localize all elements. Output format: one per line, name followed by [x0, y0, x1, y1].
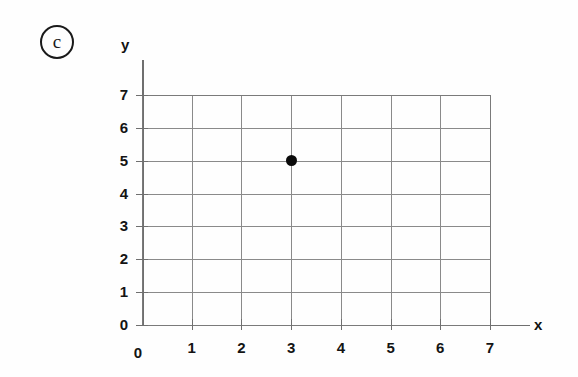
gridline-vertical: [341, 95, 342, 325]
gridline-horizontal: [142, 226, 490, 227]
gridline-vertical: [391, 95, 392, 325]
plot-area: [142, 95, 490, 325]
gridline-vertical: [440, 95, 441, 325]
x-axis-tick: [391, 319, 392, 330]
coordinate-grid-figure: c y x 01234567 01234567: [0, 0, 578, 377]
gridline-vertical: [241, 95, 242, 325]
x-axis-tick: [440, 319, 441, 330]
y-axis-tick-label: 7: [106, 86, 128, 103]
gridline-horizontal: [142, 259, 490, 260]
y-axis-tick: [136, 95, 148, 96]
x-axis-tick-label: 4: [329, 339, 353, 356]
y-axis-tick: [136, 292, 148, 293]
x-axis-tick: [192, 319, 193, 330]
gridline-vertical: [192, 95, 193, 325]
y-axis-tick: [136, 128, 148, 129]
data-point: [286, 155, 297, 166]
gridline-horizontal: [142, 161, 490, 162]
y-axis-tick-label: 1: [106, 283, 128, 300]
x-axis-tick-label: 7: [478, 339, 502, 356]
x-axis-tick: [341, 319, 342, 330]
x-axis-tick-label: 2: [229, 339, 253, 356]
part-label-circled-letter: c: [40, 25, 74, 59]
gridline-horizontal: [142, 194, 490, 195]
gridline-horizontal: [142, 95, 490, 96]
y-axis-tick-label: 5: [106, 152, 128, 169]
y-axis-label: y: [121, 36, 129, 53]
gridline-vertical: [142, 95, 143, 325]
x-axis-tick-label: 0: [126, 344, 150, 361]
x-axis-label: x: [534, 316, 542, 333]
x-axis-tick-label: 6: [428, 339, 452, 356]
gridline-horizontal: [142, 292, 490, 293]
y-axis-tick-label: 6: [106, 119, 128, 136]
y-axis-tick: [136, 226, 148, 227]
x-axis-tick-label: 1: [180, 339, 204, 356]
gridline-horizontal: [142, 128, 490, 129]
y-axis-tick: [136, 325, 148, 326]
y-axis-tick: [136, 194, 148, 195]
x-axis-tick-label: 5: [379, 339, 403, 356]
y-axis-tick-label: 0: [106, 316, 128, 333]
y-axis-tick: [136, 161, 148, 162]
x-axis-tick: [241, 319, 242, 330]
y-axis-tick-label: 3: [106, 217, 128, 234]
gridline-vertical: [291, 95, 292, 325]
y-axis-tick: [136, 259, 148, 260]
x-axis-tick: [291, 319, 292, 330]
x-axis-tick: [490, 319, 491, 330]
y-axis-tick-label: 2: [106, 250, 128, 267]
gridline-horizontal: [142, 325, 490, 326]
gridline-vertical: [490, 95, 491, 325]
x-axis-tick-label: 3: [279, 339, 303, 356]
y-axis-tick-label: 4: [106, 185, 128, 202]
